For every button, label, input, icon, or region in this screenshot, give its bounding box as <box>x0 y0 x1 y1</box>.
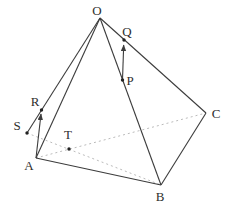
label-A: A <box>24 158 34 173</box>
label-R: R <box>31 94 40 109</box>
label-P: P <box>126 73 133 88</box>
label-S: S <box>13 118 20 133</box>
label-T: T <box>64 127 72 142</box>
point-S-dot <box>25 131 28 134</box>
point-T-dot <box>67 147 70 150</box>
label-B: B <box>156 189 165 204</box>
label-Q: Q <box>122 24 132 39</box>
label-O: O <box>92 3 101 18</box>
point-R-dot <box>40 108 43 111</box>
label-C: C <box>212 106 221 121</box>
point-P-dot <box>121 78 124 81</box>
tetrahedron-diagram: OABCSRTPQ <box>0 0 230 212</box>
diagram-canvas: OABCSRTPQ <box>0 0 230 212</box>
